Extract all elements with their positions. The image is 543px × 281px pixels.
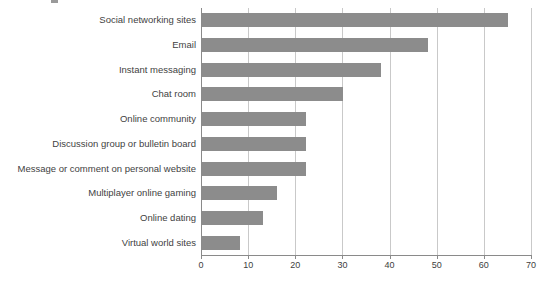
- bar-chart-figure: Social networking sitesEmailInstant mess…: [0, 0, 543, 281]
- bar[interactable]: [202, 63, 381, 77]
- x-tick-label: 50: [417, 260, 457, 271]
- x-tick-label: 30: [322, 260, 362, 271]
- x-tick-label: 40: [370, 260, 410, 271]
- x-tick-label: 70: [511, 260, 543, 271]
- bar-row[interactable]: [201, 82, 531, 107]
- bar[interactable]: [202, 13, 508, 27]
- x-tick: [437, 255, 438, 259]
- x-tick: [342, 255, 343, 259]
- bar-row[interactable]: [201, 33, 531, 58]
- bar-row[interactable]: [201, 156, 531, 181]
- x-tick: [295, 255, 296, 259]
- category-axis-labels: Social networking sitesEmailInstant mess…: [0, 8, 201, 255]
- x-tick: [390, 255, 391, 259]
- bar[interactable]: [202, 162, 306, 176]
- bar-row[interactable]: [201, 230, 531, 255]
- x-tick: [248, 255, 249, 259]
- category-label: Social networking sites: [5, 14, 201, 26]
- plot-area: [201, 8, 531, 255]
- category-label: Discussion group or bulletin board: [5, 138, 201, 150]
- bar[interactable]: [202, 137, 306, 151]
- category-label: Online community: [5, 113, 201, 125]
- bar-row[interactable]: [201, 132, 531, 157]
- bar-row[interactable]: [201, 57, 531, 82]
- bar-row[interactable]: [201, 107, 531, 132]
- category-label: Message or comment on personal website: [5, 163, 201, 175]
- bar[interactable]: [202, 211, 263, 225]
- category-label: Email: [5, 39, 201, 51]
- category-label: Virtual world sites: [5, 237, 201, 249]
- category-label: Online dating: [5, 212, 201, 224]
- category-label: Chat room: [5, 88, 201, 100]
- x-tick-label: 0: [181, 260, 221, 271]
- x-tick: [201, 255, 202, 259]
- bar-row[interactable]: [201, 8, 531, 33]
- bar-row[interactable]: [201, 181, 531, 206]
- bar-row[interactable]: [201, 206, 531, 231]
- x-tick-label: 10: [228, 260, 268, 271]
- x-axis-line: [201, 255, 532, 256]
- bar[interactable]: [202, 112, 306, 126]
- gridline-70: [531, 8, 532, 255]
- bar[interactable]: [202, 87, 343, 101]
- bar[interactable]: [202, 38, 428, 52]
- category-label: Multiplayer online gaming: [5, 187, 201, 199]
- top-edge-artifact: [51, 0, 58, 3]
- category-label: Instant messaging: [5, 64, 201, 76]
- x-tick: [531, 255, 532, 259]
- x-tick-label: 20: [275, 260, 315, 271]
- x-tick: [484, 255, 485, 259]
- bar[interactable]: [202, 186, 277, 200]
- bar[interactable]: [202, 236, 240, 250]
- caption-text: [6, 272, 526, 281]
- x-tick-label: 60: [464, 260, 504, 271]
